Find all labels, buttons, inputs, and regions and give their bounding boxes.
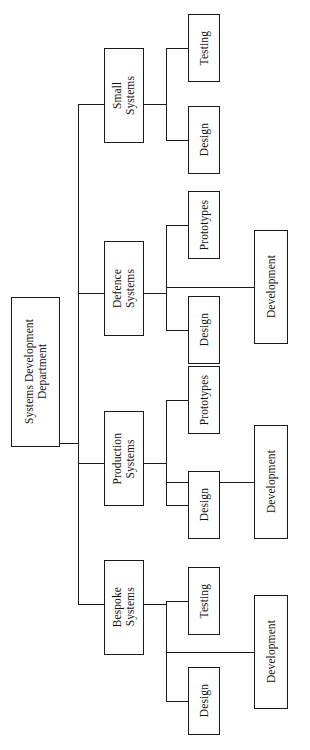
connector-bespoke-stub — [144, 604, 166, 605]
connector-production-design — [166, 505, 188, 506]
node-label: Prototypes — [198, 200, 211, 250]
connector-small-testing — [166, 48, 188, 49]
connector-defence-prototypes — [166, 225, 188, 226]
connector-trunk-production — [78, 463, 104, 464]
node-production-systems[interactable]: Production Systems — [104, 411, 144, 506]
node-label: Design — [198, 488, 211, 521]
connector-trunk-defence — [78, 293, 104, 294]
node-defence-systems[interactable]: Defence Systems — [104, 241, 144, 336]
node-defence-design[interactable]: Design — [188, 296, 220, 364]
connector-defence-development — [166, 287, 254, 288]
connector-bespoke-development — [166, 652, 254, 653]
connector-defence-stub — [144, 293, 166, 294]
node-production-design[interactable]: Design — [188, 471, 220, 539]
node-label: Development — [265, 450, 278, 513]
node-label: Production Systems — [111, 433, 137, 484]
node-label: Prototypes — [198, 375, 211, 425]
connector-small-branch — [166, 48, 167, 140]
node-production-development[interactable]: Development — [254, 425, 288, 539]
connector-root-stub — [60, 443, 78, 444]
node-bespoke-design[interactable]: Design — [188, 667, 220, 735]
connector-production-stub — [144, 463, 166, 464]
node-defence-prototypes[interactable]: Prototypes — [188, 191, 220, 259]
node-label: Systems Development Department — [23, 319, 49, 424]
node-label: Design — [198, 684, 211, 717]
node-label: Development — [265, 620, 278, 683]
node-label: Bespoke Systems — [111, 587, 137, 627]
node-label: Testing — [198, 584, 211, 618]
node-label: Design — [198, 123, 211, 156]
node-label: Design — [198, 313, 211, 346]
connector-bespoke-design — [166, 701, 188, 702]
connector-production-prototypes — [166, 400, 188, 401]
connector-bespoke-testing — [166, 601, 188, 602]
node-production-prototypes[interactable]: Prototypes — [188, 366, 220, 434]
node-small-testing[interactable]: Testing — [188, 14, 220, 82]
node-label: Testing — [198, 31, 211, 65]
connector-defence-design — [166, 330, 188, 331]
node-label: Small Systems — [111, 76, 137, 115]
connector-small-stub — [144, 104, 166, 105]
node-small-design[interactable]: Design — [188, 106, 220, 174]
node-label: Development — [265, 255, 278, 318]
node-label: Defence Systems — [111, 269, 137, 308]
node-systems-development-department[interactable]: Systems Development Department — [11, 297, 60, 447]
node-bespoke-testing[interactable]: Testing — [188, 567, 220, 635]
connector-defence-branch — [166, 225, 167, 330]
connector-bespoke-branch — [166, 601, 167, 701]
node-defence-development[interactable]: Development — [254, 230, 288, 344]
connector-production-branch — [166, 400, 167, 505]
connector-trunk-bespoke — [78, 604, 104, 605]
connector-small-design — [166, 140, 188, 141]
connector-trunk — [78, 104, 79, 604]
org-chart: Systems Development Department Small Sys… — [0, 0, 310, 750]
node-bespoke-development[interactable]: Development — [254, 595, 288, 709]
node-small-systems[interactable]: Small Systems — [104, 48, 144, 143]
node-bespoke-systems[interactable]: Bespoke Systems — [104, 560, 144, 655]
connector-trunk-small — [78, 104, 104, 105]
